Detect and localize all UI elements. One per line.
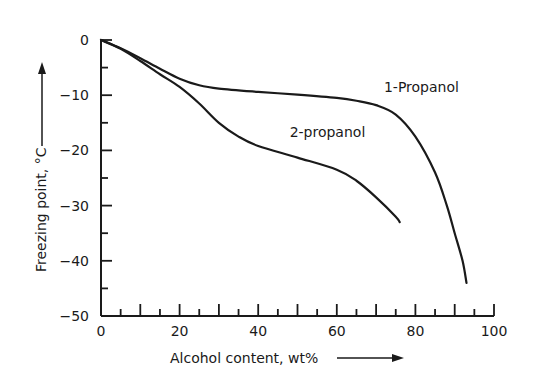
x-axis-title: Alcohol content, wt% [170,350,318,366]
x-axis-arrowhead [392,354,404,362]
x-tick-label: 20 [171,323,189,339]
curves [101,40,466,283]
x-tick-label: 100 [481,323,508,339]
2-propanol-label: 2-propanol [290,124,366,140]
x-tick-label: 80 [406,323,424,339]
1-propanol-curve [101,40,466,283]
y-tick-label: −10 [59,87,89,103]
y-tick-label: −40 [59,253,89,269]
chart: 0−10−20−30−40−50020406080100Alcohol cont… [0,0,534,385]
y-tick-label: −30 [59,198,89,214]
x-tick-label: 0 [97,323,106,339]
y-tick-label: 0 [80,32,89,48]
x-tick-label: 60 [328,323,346,339]
y-axis-arrowhead [38,62,46,74]
y-tick-label: −50 [59,308,89,324]
y-tick-label: −20 [59,142,89,158]
x-tick-label: 40 [249,323,267,339]
y-axis-title: Freezing point, °C [33,147,49,272]
1-propanol-label: 1-Propanol [384,79,459,95]
